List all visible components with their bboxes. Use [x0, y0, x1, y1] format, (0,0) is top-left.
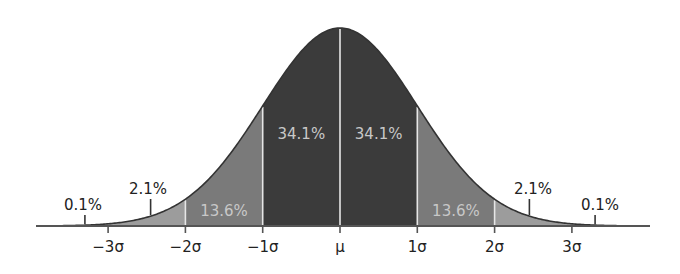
x-axis-ticks [108, 226, 572, 233]
band-percent-label: 34.1% [278, 125, 326, 143]
band-percent-label: 13.6% [432, 202, 480, 220]
band-percent-label: 2.1% [514, 180, 552, 198]
band-percent-label: 0.1% [64, 196, 102, 214]
x-tick-label: 1σ [408, 238, 428, 256]
band-percent-label: 0.1% [581, 196, 619, 214]
x-tick-label: 2σ [485, 238, 505, 256]
x-tick-label: −3σ [92, 238, 124, 256]
x-tick-label: 3σ [562, 238, 582, 256]
x-tick-label: μ [335, 238, 345, 256]
x-tick-label: −1σ [247, 238, 279, 256]
x-axis-tick-labels: −3σ−2σ−1σμ1σ2σ3σ [92, 238, 582, 256]
band-percent-label: 2.1% [129, 180, 167, 198]
x-tick-label: −2σ [170, 238, 202, 256]
band-percent-label: 13.6% [200, 202, 248, 220]
normal-distribution-chart: −3σ−2σ−1σμ1σ2σ3σ 0.1%2.1%13.6%34.1%34.1%… [0, 0, 680, 274]
band-percent-label: 34.1% [355, 125, 403, 143]
